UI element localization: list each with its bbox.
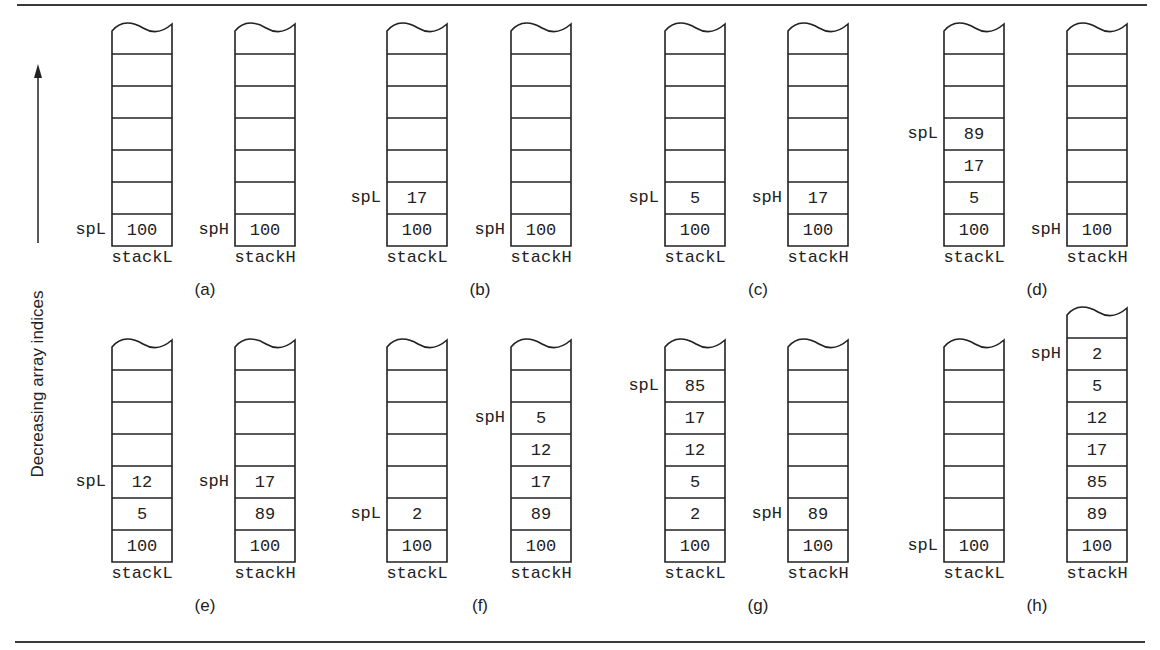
stack-low: 1005 [664, 22, 726, 246]
stack-cell: 2 [1066, 338, 1128, 370]
stack-high: 100 [1066, 22, 1128, 246]
panel-label: (d) [1017, 280, 1057, 300]
pointer-spL: spL [619, 188, 659, 207]
stack-low: 10051789 [943, 22, 1005, 246]
panel-label: (g) [738, 596, 778, 616]
stack-low: 10017 [386, 22, 448, 246]
stack-cell: 17 [787, 182, 849, 214]
stack-cell: 5 [664, 466, 726, 498]
stack-cell: 12 [510, 434, 572, 466]
panel-label: (b) [460, 280, 500, 300]
stack-cell: 17 [1066, 434, 1128, 466]
stack-name: stackH [1052, 248, 1142, 267]
stack-high: 100 [510, 22, 572, 246]
stack-name: stackL [929, 248, 1019, 267]
stack-cell: 17 [386, 182, 448, 214]
pointer-spH: spH [189, 472, 229, 491]
stack-cell: 17 [234, 466, 296, 498]
stack-outline [1066, 22, 1128, 246]
stack-cell: 100 [664, 214, 726, 246]
stack-outline [943, 338, 1005, 562]
stack-cell: 100 [234, 214, 296, 246]
stack-outline [234, 22, 296, 246]
stack-high: 10089 [787, 338, 849, 562]
stack-low: 100 [111, 22, 173, 246]
stack-name: stackH [496, 248, 586, 267]
stack-name: stackL [650, 564, 740, 583]
stack-cell: 5 [664, 182, 726, 214]
stack-low: 1002 [386, 338, 448, 562]
stack-high: 1008917 [234, 338, 296, 562]
stack-cell: 100 [510, 530, 572, 562]
stack-high: 1008985171252 [1066, 306, 1128, 562]
stack-cell: 85 [664, 370, 726, 402]
stack-cell: 100 [111, 530, 173, 562]
stack-cell: 100 [943, 530, 1005, 562]
stack-high: 100 [234, 22, 296, 246]
stack-cell: 5 [111, 498, 173, 530]
stack-name: stackL [372, 248, 462, 267]
stack-name: stackL [97, 564, 187, 583]
stack-name: stackH [496, 564, 586, 583]
pointer-spL: spL [66, 220, 106, 239]
stack-name: stackH [773, 564, 863, 583]
stack-outline [111, 22, 173, 246]
pointer-spL: spL [341, 504, 381, 523]
stack-cell: 100 [787, 530, 849, 562]
stack-cell: 12 [664, 434, 726, 466]
pointer-spH: spH [1021, 344, 1061, 363]
panel-label: (c) [738, 280, 778, 300]
stack-cell: 17 [664, 402, 726, 434]
stack-cell: 100 [787, 214, 849, 246]
stack-name: stackH [773, 248, 863, 267]
stack-cell: 5 [943, 182, 1005, 214]
pointer-spH: spH [189, 220, 229, 239]
stack-cell: 85 [1066, 466, 1128, 498]
stack-high: 10017 [787, 22, 849, 246]
stack-cell: 100 [1066, 530, 1128, 562]
stack-name: stackH [1052, 564, 1142, 583]
panel-label: (e) [185, 596, 225, 616]
stack-outline [510, 22, 572, 246]
stack-cell: 17 [510, 466, 572, 498]
stack-cell: 12 [1066, 402, 1128, 434]
pointer-spH: spH [742, 188, 782, 207]
stack-cell: 89 [787, 498, 849, 530]
stack-cell: 12 [111, 466, 173, 498]
stack-cell: 89 [1066, 498, 1128, 530]
pointer-spH: spH [465, 220, 505, 239]
stack-name: stackL [929, 564, 1019, 583]
axis-label: Decreasing array indices [28, 290, 48, 477]
stack-low: 10025121785 [664, 338, 726, 562]
pointer-spL: spL [898, 124, 938, 143]
stack-cell: 17 [943, 150, 1005, 182]
stack-cell: 5 [1066, 370, 1128, 402]
pointer-spH: spH [742, 504, 782, 523]
top-rule [17, 4, 1147, 6]
stack-cell: 100 [943, 214, 1005, 246]
stack-low: 100 [943, 338, 1005, 562]
panel-label: (h) [1017, 596, 1057, 616]
stack-cell: 100 [510, 214, 572, 246]
panel-label: (f) [460, 596, 500, 616]
pointer-spH: spH [465, 408, 505, 427]
stack-name: stackL [372, 564, 462, 583]
stack-cell: 2 [664, 498, 726, 530]
pointer-spL: spL [898, 536, 938, 555]
stack-cell: 89 [510, 498, 572, 530]
stack-cell: 100 [386, 530, 448, 562]
stack-cell: 100 [234, 530, 296, 562]
stack-cell: 100 [386, 214, 448, 246]
pointer-spL: spL [619, 376, 659, 395]
stack-cell: 89 [943, 118, 1005, 150]
stack-cell: 100 [664, 530, 726, 562]
stack-cell: 100 [111, 214, 173, 246]
stack-cell: 100 [1066, 214, 1128, 246]
up-arrow-icon [0, 0, 60, 260]
stack-name: stackL [650, 248, 740, 267]
pointer-spH: spH [1021, 220, 1061, 239]
pointer-spL: spL [341, 188, 381, 207]
stack-low: 100512 [111, 338, 173, 562]
stack-name: stackH [220, 248, 310, 267]
stack-cell: 5 [510, 402, 572, 434]
